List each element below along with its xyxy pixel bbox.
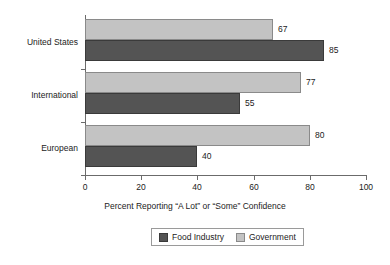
legend-swatch-food-industry-icon xyxy=(159,233,168,242)
x-axis-tick xyxy=(254,176,255,180)
category-label-european: European xyxy=(41,143,78,153)
x-axis-tick xyxy=(85,176,86,180)
legend-item-government: Government xyxy=(236,232,296,242)
bar-international-food-industry xyxy=(85,93,240,114)
bar-chart: 0 20 40 60 80 100 United States Internat… xyxy=(0,0,390,265)
legend-swatch-government-icon xyxy=(236,233,245,242)
value-label-international-government: 77 xyxy=(306,77,315,87)
x-axis-title: Percent Reporting “A Lot” or “Some” Conf… xyxy=(0,201,390,212)
x-axis-tick xyxy=(366,176,367,180)
value-label-european-food-industry: 40 xyxy=(202,151,211,161)
bar-united-states-food-industry xyxy=(85,40,324,61)
legend-item-food-industry: Food Industry xyxy=(159,232,224,242)
chart-legend: Food Industry Government xyxy=(151,228,304,246)
x-axis-tick-label-0: 0 xyxy=(70,182,100,192)
x-axis-tick-label-100: 100 xyxy=(351,182,381,192)
bar-united-states-government xyxy=(85,19,273,40)
plot-area: 67 85 77 55 80 40 xyxy=(85,16,366,175)
value-label-united-states-food-industry: 85 xyxy=(329,45,338,55)
value-label-european-government: 80 xyxy=(315,130,324,140)
category-label-united-states: United States xyxy=(27,37,78,47)
category-label-international: International xyxy=(31,90,78,100)
legend-label-government: Government xyxy=(249,232,296,242)
x-axis-tick xyxy=(197,176,198,180)
bar-international-government xyxy=(85,72,301,93)
x-axis-tick xyxy=(141,176,142,180)
x-axis-tick xyxy=(310,176,311,180)
value-label-united-states-government: 67 xyxy=(278,24,287,34)
value-label-international-food-industry: 55 xyxy=(245,98,254,108)
bar-european-food-industry xyxy=(85,146,197,167)
x-axis-line xyxy=(85,175,367,176)
x-axis-tick-label-60: 60 xyxy=(239,182,269,192)
x-axis-tick-label-40: 40 xyxy=(182,182,212,192)
bar-european-government xyxy=(85,125,310,146)
legend-label-food-industry: Food Industry xyxy=(172,232,224,242)
x-axis-tick-label-20: 20 xyxy=(126,182,156,192)
x-axis-tick-label-80: 80 xyxy=(295,182,325,192)
